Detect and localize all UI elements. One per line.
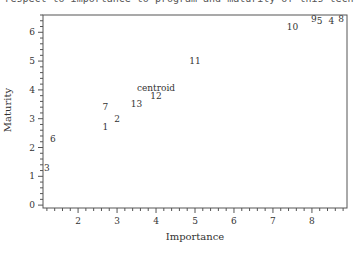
y-tick-label: 4 xyxy=(29,85,35,95)
x-tick-label: 5 xyxy=(192,216,198,226)
x-tick-label: 6 xyxy=(231,216,237,226)
point-label: 6 xyxy=(50,134,56,144)
y-tick-label: 3 xyxy=(29,114,35,124)
point-label: 1 xyxy=(102,122,108,132)
point-label: 2 xyxy=(114,114,120,124)
y-tick-label: 0 xyxy=(29,200,35,210)
data-labels: 361271312centroid11109548 xyxy=(44,14,344,172)
y-tick-label: 5 xyxy=(29,56,35,66)
point-label: 10 xyxy=(287,22,299,32)
point-label: 5 xyxy=(317,16,323,26)
x-axis-label: Importance xyxy=(166,231,225,242)
x-tick-label: 8 xyxy=(309,216,315,226)
point-label: centroid xyxy=(137,83,175,93)
y-tick-label: 1 xyxy=(29,171,35,181)
y-tick-label: 6 xyxy=(29,27,35,37)
x-tick-label: 3 xyxy=(114,216,120,226)
plot-frame xyxy=(43,15,347,208)
point-label: 8 xyxy=(338,14,344,24)
y-tick-label: 2 xyxy=(29,143,35,153)
scatter-plot: 23456780123456 361271312centroid11109548… xyxy=(0,0,358,253)
point-label: 7 xyxy=(102,102,108,112)
plot-axes: 23456780123456 xyxy=(29,15,347,226)
point-label: 11 xyxy=(189,56,200,66)
x-tick-label: 2 xyxy=(75,216,81,226)
point-label: 3 xyxy=(44,163,50,173)
point-label: 13 xyxy=(131,99,143,109)
x-tick-label: 7 xyxy=(270,216,276,226)
x-tick-label: 4 xyxy=(153,216,159,226)
y-axis-label: Maturity xyxy=(2,87,13,132)
point-label: 4 xyxy=(329,16,335,26)
